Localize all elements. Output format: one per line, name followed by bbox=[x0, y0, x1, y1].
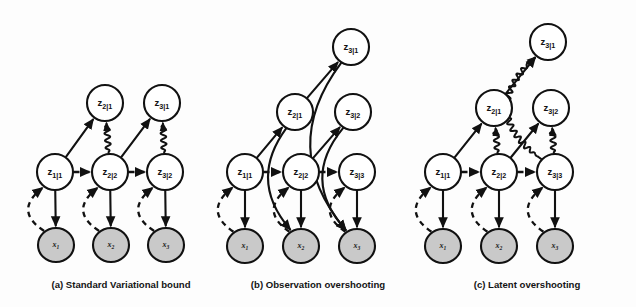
node-a_z31: z3|1 bbox=[144, 85, 180, 121]
node-c_x2: x2 bbox=[481, 229, 517, 263]
edge-dashed-a_x2-to-a_z22 bbox=[83, 188, 99, 231]
node-sublabel-b_x3: 3 bbox=[357, 245, 361, 251]
node-sublabel-c_z21: 2|1 bbox=[491, 106, 501, 115]
diagram-canvas: z2|1z3|1z1|1z2|2z3|2x1x2x3z3|1z2|1z3|2z1… bbox=[0, 0, 636, 307]
edge-solid-a_z11-to-a_z21 bbox=[66, 120, 93, 157]
node-b_z21: z2|1 bbox=[277, 94, 313, 130]
node-b_z33: z3|3 bbox=[339, 154, 375, 190]
node-b_x1: x1 bbox=[227, 229, 263, 263]
panel-caption-b: (b) Observation overshooting bbox=[251, 279, 385, 290]
node-sublabel-c_z32: 3|2 bbox=[548, 106, 558, 115]
node-b_z32: z3|2 bbox=[335, 94, 371, 130]
edge-wavy-a_z22-to-a_z21 bbox=[105, 124, 111, 154]
node-a_x1: x1 bbox=[38, 228, 74, 262]
node-sublabel-a_x3: 3 bbox=[166, 244, 170, 250]
node-sublabel-a_z22: 2|2 bbox=[107, 170, 117, 179]
edge-wavy-c_z22-to-c_z21 bbox=[493, 129, 499, 154]
node-sublabel-b_z11: 1|1 bbox=[242, 170, 252, 179]
node-c_z33: z3|3 bbox=[537, 154, 573, 190]
node-c_z22: z2|2 bbox=[481, 154, 517, 190]
node-sublabel-c_x1: 1 bbox=[444, 245, 447, 251]
edge-dashed-a_x1-to-a_z11 bbox=[28, 188, 44, 231]
edge-dashed-b_x1-to-b_z11 bbox=[218, 188, 234, 232]
node-sublabel-b_z22: 2|2 bbox=[298, 170, 308, 179]
node-sublabel-a_z21: 2|1 bbox=[102, 101, 112, 110]
node-sublabel-a_x1: 1 bbox=[57, 244, 60, 250]
edge-solid-c_z11-to-c_z21 bbox=[455, 124, 481, 157]
figure-root: z2|1z3|1z1|1z2|2z3|2x1x2x3z3|1z2|1z3|2z1… bbox=[0, 0, 636, 307]
node-b_x3: x3 bbox=[339, 229, 375, 263]
node-a_z11: z1|1 bbox=[37, 154, 73, 190]
panel-caption-c: (c) Latent overshooting bbox=[474, 279, 581, 290]
node-sublabel-b_x2: 2 bbox=[301, 245, 305, 251]
node-sublabel-c_x3: 3 bbox=[555, 245, 559, 251]
node-a_z32: z3|2 bbox=[147, 154, 183, 190]
node-c_z21: z2|1 bbox=[476, 90, 512, 126]
node-sublabel-a_z32: 3|2 bbox=[162, 170, 172, 179]
node-c_x1: x1 bbox=[425, 229, 461, 263]
node-a_x3: x3 bbox=[148, 228, 184, 262]
node-sublabel-c_z31: 3|1 bbox=[545, 40, 555, 49]
node-c_z11: z1|1 bbox=[425, 154, 461, 190]
node-b_z22: z2|2 bbox=[283, 154, 319, 190]
edge-layer bbox=[28, 58, 556, 232]
node-sublabel-b_z31: 3|1 bbox=[348, 45, 358, 54]
node-sublabel-b_z21: 2|1 bbox=[292, 110, 302, 119]
edge-solid-a_z22-to-a_z31 bbox=[121, 119, 149, 156]
panel-caption-a: (a) Standard Variational bound bbox=[51, 279, 190, 290]
node-sublabel-c_x2: 2 bbox=[499, 245, 503, 251]
edge-dashed-c_x1-to-c_z11 bbox=[416, 188, 432, 232]
node-sublabel-b_x1: 1 bbox=[246, 245, 249, 251]
node-c_x3: x3 bbox=[537, 229, 573, 263]
node-a_z21: z2|1 bbox=[87, 85, 123, 121]
node-layer: z2|1z3|1z1|1z2|2z3|2x1x2x3z3|1z2|1z3|2z1… bbox=[37, 24, 573, 263]
node-sublabel-c_z11: 1|1 bbox=[440, 170, 450, 179]
caption-layer: (a) Standard Variational bound(b) Observ… bbox=[51, 279, 580, 290]
node-sublabel-a_z31: 3|1 bbox=[159, 101, 169, 110]
node-a_x2: x2 bbox=[93, 228, 129, 262]
node-c_z32: z3|2 bbox=[533, 90, 569, 126]
edge-dashed-c_x2-to-c_z22 bbox=[472, 188, 488, 232]
node-b_z31: z3|1 bbox=[333, 29, 369, 65]
node-b_z11: z1|1 bbox=[227, 154, 263, 190]
edge-wavy-c_z33-to-c_z32 bbox=[550, 129, 556, 153]
edge-dashed-a_x3-to-a_z32 bbox=[138, 188, 154, 231]
node-sublabel-b_z32: 3|2 bbox=[350, 110, 360, 119]
node-sublabel-c_z22: 2|2 bbox=[496, 170, 506, 179]
node-sublabel-b_z33: 3|3 bbox=[354, 170, 364, 179]
node-sublabel-a_z11: 1|1 bbox=[52, 170, 62, 179]
edge-wavy-a_z32-to-a_z31 bbox=[161, 124, 167, 153]
node-a_z22: z2|2 bbox=[92, 154, 128, 190]
edge-dashed-c_x3-to-c_z33 bbox=[528, 188, 544, 232]
node-c_z31: z3|1 bbox=[530, 24, 566, 60]
node-sublabel-a_x2: 2 bbox=[111, 244, 115, 250]
node-b_x2: x2 bbox=[283, 229, 319, 263]
node-sublabel-c_z33: 3|3 bbox=[552, 170, 562, 179]
